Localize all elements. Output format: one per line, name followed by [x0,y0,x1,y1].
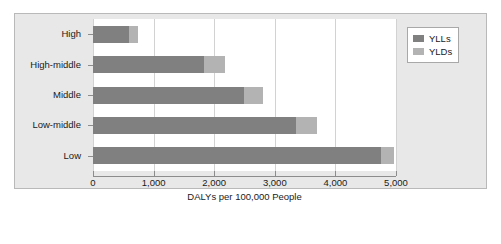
legend-label-ylls: YLLs [429,33,451,44]
gridline [396,19,397,171]
bar-segment-ylls [93,56,204,73]
bar-stack [93,117,317,134]
x-axis-tick [214,171,215,176]
bar-segment-ylds [244,87,263,104]
x-axis-tick-label: 5,000 [366,177,426,188]
x-axis-title: DALYs per 100,000 People [93,191,396,202]
x-axis-tick [275,171,276,176]
bar-segment-ylds [204,56,225,73]
bar-stack [93,147,394,164]
y-axis-tick [88,156,93,157]
x-axis-tick-label: 2,000 [184,177,244,188]
bar-segment-ylds [296,117,317,134]
x-axis-tick [396,171,397,176]
y-axis-tick [88,65,93,66]
bar-segment-ylds [129,26,138,43]
x-axis-tick [335,171,336,176]
chart-figure: HighHigh-middleMiddleLow-middleLow 01,00… [14,13,487,189]
x-axis-tick-label: 1,000 [124,177,184,188]
category-label-middle: Middle [0,90,81,100]
x-axis-tick [154,171,155,176]
legend-swatch-ylls [413,35,424,42]
category-label-high: High [0,29,81,39]
category-label-low-middle: Low-middle [0,120,81,130]
chart-legend: YLLs YLDs [407,27,459,63]
bar-segment-ylls [93,117,296,134]
bar-stack [93,26,138,43]
category-label-low: Low [0,151,81,161]
bar-segment-ylds [381,147,393,164]
legend-swatch-ylds [413,48,424,55]
y-axis-tick [88,95,93,96]
bar-segment-ylls [93,147,381,164]
bar-stack [93,87,263,104]
bar-stack [93,56,225,73]
legend-item-ylls: YLLs [413,32,452,45]
bar-segment-ylls [93,87,244,104]
x-axis-tick-label: 0 [63,177,123,188]
category-label-high-middle: High-middle [0,60,81,70]
x-axis-tick [93,171,94,176]
x-axis-tick-label: 4,000 [305,177,365,188]
legend-label-ylds: YLDs [429,46,452,57]
legend-item-ylds: YLDs [413,45,452,58]
y-axis-tick [88,125,93,126]
y-axis-tick [88,34,93,35]
bar-segment-ylls [93,26,129,43]
x-axis-tick-label: 3,000 [245,177,305,188]
